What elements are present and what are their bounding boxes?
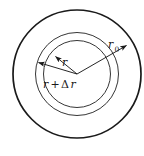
shell-label-delta: Δ	[61, 78, 69, 91]
shell-label-base: r	[43, 78, 49, 91]
shell-label-plus: +	[51, 78, 60, 91]
concentric-circles-diagram: r 0 r r + Δ r	[0, 0, 144, 156]
r-label: r	[62, 56, 68, 69]
r0-label-base: r	[108, 38, 114, 51]
figure-container: r 0 r r + Δ r	[0, 0, 144, 156]
r0-label-subscript: 0	[115, 45, 120, 54]
shell-label-variable: r	[71, 78, 77, 91]
